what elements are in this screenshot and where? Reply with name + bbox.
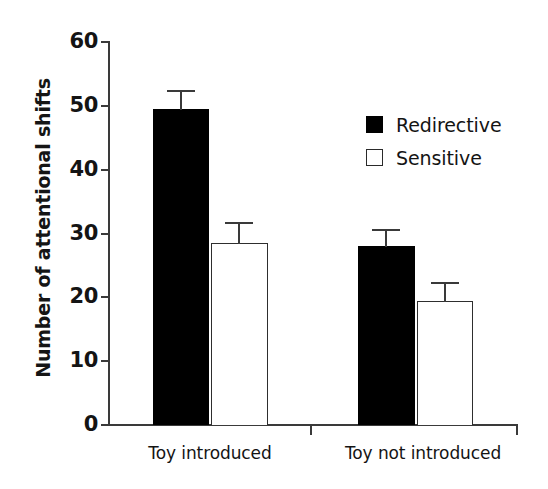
errorbar-cap-sensitive-toy-introduced (225, 222, 253, 224)
x-tickmark-group-separator (310, 425, 312, 435)
bar-sensitive-toy-introduced (211, 243, 268, 425)
bar-redirective-toy-not-introduced (358, 246, 415, 425)
x-tick-label-toy-introduced: Toy introduced (130, 443, 290, 463)
errorbar-cap-sensitive-toy-not-introduced (431, 282, 459, 284)
errorbar-stem-redirective-toy-introduced (180, 91, 182, 110)
x-tickmark-right-end (516, 425, 518, 435)
errorbar-stem-sensitive-toy-introduced (238, 223, 240, 244)
legend-label-redirective: Redirective (396, 114, 501, 136)
bar-redirective-toy-introduced (153, 109, 209, 425)
errorbar-stem-sensitive-toy-not-introduced (444, 283, 446, 302)
x-tick-label-toy-not-introduced: Toy not introduced (330, 443, 516, 463)
legend-item-sensitive: Sensitive (366, 141, 501, 174)
errorbar-cap-redirective-toy-not-introduced (372, 229, 400, 231)
filled-square-icon (366, 116, 383, 133)
y-axis-line (108, 42, 110, 426)
errorbar-cap-redirective-toy-introduced (167, 90, 195, 92)
legend: Redirective Sensitive (366, 108, 501, 174)
legend-label-sensitive: Sensitive (396, 147, 482, 169)
errorbar-stem-redirective-toy-not-introduced (385, 230, 387, 247)
bar-chart-figure: Number of attentional shifts 60 50 40 30… (0, 0, 548, 489)
legend-item-redirective: Redirective (366, 108, 501, 141)
bar-sensitive-toy-not-introduced (417, 301, 473, 425)
open-square-icon (366, 149, 383, 166)
